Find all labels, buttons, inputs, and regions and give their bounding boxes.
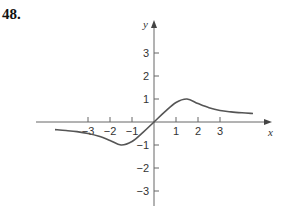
y-tick-label: 3 <box>143 47 149 59</box>
y-tick-label: 2 <box>143 70 149 82</box>
x-tick-label: 3 <box>217 125 223 137</box>
x-tick-label: −2 <box>104 125 117 137</box>
y-axis-arrow-icon <box>151 20 157 28</box>
x-ticks: −3−2−1123 <box>82 117 223 137</box>
y-tick-label: −1 <box>136 139 149 151</box>
x-axis-label: x <box>267 126 273 138</box>
function-graph: x y −3−2−1123 −3−2−1123 <box>0 0 287 214</box>
x-tick-label: 1 <box>173 125 179 137</box>
y-tick-label: −2 <box>136 162 149 174</box>
x-axis-arrow-icon <box>264 119 272 125</box>
y-tick-label: −3 <box>136 185 149 197</box>
x-tick-label: −1 <box>126 125 139 137</box>
y-axis-label: y <box>142 18 148 30</box>
x-tick-label: 2 <box>195 125 201 137</box>
y-tick-label: 1 <box>143 93 149 105</box>
